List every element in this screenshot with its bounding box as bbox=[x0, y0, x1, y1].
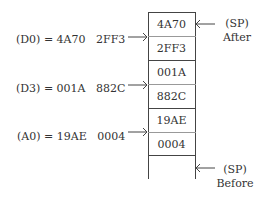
arrow-right-icon bbox=[128, 33, 147, 41]
arrow-left-icon bbox=[196, 164, 215, 172]
stack-push-diagram: 4A70 2FF3 001A 882C 19AE 0004 (D0) = 4A7… bbox=[0, 0, 261, 198]
arrow-right-icon bbox=[128, 81, 147, 89]
sp-after-label: (SP) After bbox=[220, 17, 254, 45]
sp-before-label: (SP) Before bbox=[214, 163, 256, 191]
sp-after-line1: (SP) bbox=[220, 17, 254, 31]
arrow-right-icon bbox=[128, 128, 147, 136]
sp-before-line2: Before bbox=[214, 177, 256, 191]
sp-after-line2: After bbox=[220, 31, 254, 45]
sp-before-line1: (SP) bbox=[214, 163, 256, 177]
arrow-left-icon bbox=[196, 20, 215, 28]
